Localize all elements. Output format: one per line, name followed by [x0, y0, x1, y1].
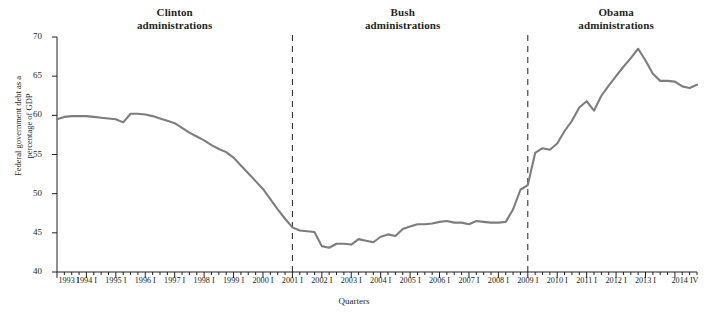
y-axis-tick-label: 55	[22, 150, 42, 159]
x-axis-tick-label: 2011 I	[576, 276, 597, 285]
annotation-line-1: Obama	[546, 6, 686, 19]
x-axis-tick-label: 2012 I	[606, 276, 627, 285]
debt-to-gdp-line	[57, 49, 697, 248]
annotation-bush-administrations: Bush administrations	[333, 6, 473, 32]
y-axis-tick-labels: 40455055606570	[16, 0, 42, 317]
annotation-line-2: administrations	[546, 19, 686, 32]
x-axis-tick-label: 2007 I	[458, 276, 479, 285]
y-axis-tick-label: 65	[22, 71, 42, 80]
annotation-clinton-administrations: Clinton administrations	[105, 6, 245, 32]
x-axis-tick-label: 1994 I	[76, 276, 97, 285]
x-axis-tick-label: 2001 I	[282, 276, 303, 285]
x-axis-tick-label: 2008 I	[488, 276, 509, 285]
x-axis-tick-label: 1996 I	[135, 276, 156, 285]
x-axis-tick-label: 2010 I	[547, 276, 568, 285]
annotation-line-1: Bush	[333, 6, 473, 19]
y-axis-tick-label: 45	[22, 228, 42, 237]
y-axis-tick-label: 50	[22, 189, 42, 198]
x-axis-tick-label: 1995 I	[105, 276, 126, 285]
administration-dividers	[292, 35, 527, 272]
annotation-line-2: administrations	[333, 19, 473, 32]
x-axis-tick-label: 2013 I	[635, 276, 656, 285]
y-axis-tick-label: 40	[22, 267, 42, 276]
annotation-line-1: Clinton	[105, 6, 245, 19]
y-axis-tick-label: 60	[22, 110, 42, 119]
x-axis-tick-label: 1999 I	[223, 276, 244, 285]
chart-figure: Clinton administrations Bush administrat…	[0, 0, 708, 317]
x-axis-tick-label: 2014 IV	[671, 276, 698, 285]
x-axis-label: Quarters	[0, 296, 708, 306]
x-axis-tick-label: 2003 I	[341, 276, 362, 285]
annotation-obama-administrations: Obama administrations	[546, 6, 686, 32]
x-axis-tick-label: 1998 I	[194, 276, 215, 285]
x-axis-tick-label: 2004 I	[370, 276, 391, 285]
x-axis-tick-label: 2006 I	[429, 276, 450, 285]
y-axis-tick-label: 70	[22, 32, 42, 41]
x-axis-tick-label: 2009 I	[517, 276, 538, 285]
x-axis-tick-label: 2002 I	[311, 276, 332, 285]
annotation-line-2: administrations	[105, 19, 245, 32]
x-axis-tick-label: 2005 I	[400, 276, 421, 285]
x-axis-tick-label: 1997 I	[164, 276, 185, 285]
plot-area	[0, 0, 708, 317]
x-axis-tick-label: 2000 I	[252, 276, 273, 285]
